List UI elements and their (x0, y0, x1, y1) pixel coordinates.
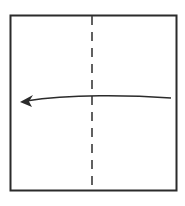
paper-square (11, 16, 177, 191)
origami-diagram (0, 0, 185, 206)
